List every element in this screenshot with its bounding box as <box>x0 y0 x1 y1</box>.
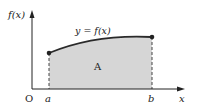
x-axis-label: x <box>179 93 185 104</box>
point-b-endpoint <box>150 35 155 40</box>
area-label: A <box>93 61 102 72</box>
lower-bound-label: a <box>45 93 51 104</box>
x-axis-arrow-icon <box>177 87 185 92</box>
upper-bound-label: b <box>148 93 154 104</box>
origin-label: O <box>25 93 33 104</box>
curve-label: y = f(x) <box>74 25 111 36</box>
y-axis-label: f(x) <box>7 9 25 20</box>
y-axis-arrow-icon <box>30 10 35 18</box>
point-a-endpoint <box>47 51 52 56</box>
area-under-curve-diagram: f(x) x O a b A y = f(x) <box>0 0 197 106</box>
